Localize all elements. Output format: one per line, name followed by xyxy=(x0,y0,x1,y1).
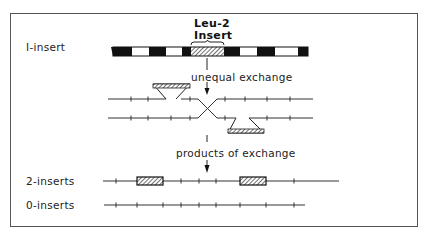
insert-label: Insert xyxy=(194,30,232,41)
one-insert-label: I-insert xyxy=(26,42,65,53)
zero-inserts-chromosome xyxy=(104,203,305,208)
products-of-exchange-label: products of exchange xyxy=(176,148,296,159)
two-inserts-label: 2-inserts xyxy=(26,176,75,187)
bar-segment-white xyxy=(275,47,298,56)
bar-segment-black xyxy=(257,47,275,56)
bar-segment-white xyxy=(132,47,149,56)
bar-segment-black xyxy=(113,47,132,56)
insert-block xyxy=(240,177,266,185)
bar-segment-hatch xyxy=(191,47,224,56)
unequal-exchange-lines xyxy=(108,97,313,121)
two-inserts-chromosome xyxy=(103,177,339,185)
insert-block xyxy=(137,177,163,185)
looped-insert-top xyxy=(153,84,190,99)
zero-inserts-label: 0-inserts xyxy=(26,200,75,211)
unequal-exchange-label: unequal exchange xyxy=(191,72,293,83)
bar-segment-black xyxy=(224,47,240,56)
leu2-label: Leu-2 xyxy=(194,18,230,29)
bar-segment-black xyxy=(298,47,308,56)
bar-segment-black xyxy=(149,47,166,56)
bar-segment-white xyxy=(166,47,182,56)
one-insert-chromosome-bar xyxy=(111,47,308,56)
looped-insert-bottom xyxy=(228,118,264,133)
bar-segment-black xyxy=(182,47,191,56)
bar-segment-white xyxy=(240,47,257,56)
